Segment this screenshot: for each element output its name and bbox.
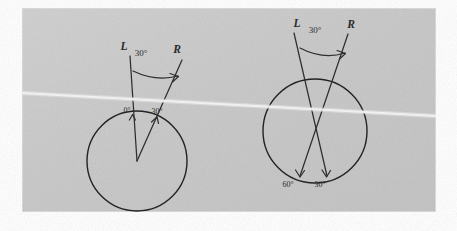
left-contact-label-30deg: 30° — [151, 107, 162, 116]
left-label-L: L — [119, 40, 127, 52]
right-label-R: R — [346, 18, 355, 30]
right-label-L: L — [292, 17, 300, 29]
right-contact-label-30deg: 30° — [314, 180, 325, 189]
paper-grain-texture — [22, 8, 436, 212]
left-contact-label-0deg: 0° — [123, 106, 130, 115]
diagram-svg: L R 30° 0° 30° L R 30° 60° 30° — [0, 0, 457, 231]
left-angle-label: 30° — [135, 48, 148, 58]
diagram-canvas: L R 30° 0° 30° L R 30° 60° 30° — [0, 0, 457, 231]
right-contact-label-60deg: 60° — [282, 180, 293, 189]
left-label-R: R — [172, 43, 181, 55]
right-angle-label: 30° — [309, 25, 322, 35]
